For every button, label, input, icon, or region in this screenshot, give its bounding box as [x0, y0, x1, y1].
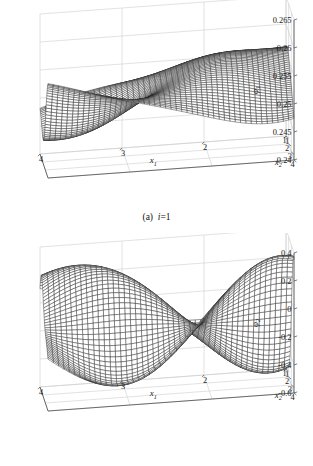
mesh-cell	[107, 274, 113, 277]
mesh-cell	[222, 75, 228, 77]
mesh-cell	[119, 308, 125, 314]
mesh-cell	[271, 100, 277, 103]
mesh-cell	[175, 95, 181, 97]
mesh-cell	[124, 298, 130, 303]
mesh-cell	[130, 319, 136, 325]
mesh-cell	[125, 326, 131, 333]
mesh-cell	[263, 350, 269, 355]
mesh-cell	[275, 317, 281, 325]
mesh-cell	[102, 277, 108, 281]
mesh-cell	[109, 309, 115, 315]
mesh-cell	[135, 308, 141, 314]
mesh-cell	[235, 119, 241, 122]
x2-axis-line	[48, 160, 294, 178]
mesh-cell	[114, 320, 120, 327]
mesh-cell	[256, 116, 262, 119]
mesh-cell	[262, 119, 268, 122]
mesh-cell	[61, 131, 67, 133]
mesh-cell	[287, 93, 293, 95]
mesh-cell	[261, 108, 267, 111]
x1-tick-label: 1	[285, 370, 289, 379]
mesh-cell	[141, 304, 147, 309]
mesh-cell	[77, 324, 83, 329]
mesh-cell	[258, 349, 264, 355]
mesh-cell	[88, 323, 94, 329]
mesh-cell	[282, 260, 288, 263]
mesh-cell	[61, 120, 67, 123]
mesh-cell	[98, 310, 104, 317]
x1-tick-label: 3	[121, 382, 125, 391]
mesh-cell	[99, 328, 105, 334]
mesh-cell	[55, 133, 61, 135]
mesh-cell	[256, 110, 262, 113]
mesh-cell	[141, 309, 147, 314]
panel-b: -0.6-0.4-0.200.20.443211234x2x1φ2 (b) i=…	[0, 233, 313, 466]
mesh-cell	[287, 263, 293, 267]
mesh-cell	[266, 102, 272, 105]
mesh-cell	[256, 121, 262, 123]
mesh-cell	[264, 318, 270, 325]
mesh-cell	[103, 288, 109, 293]
mesh-cell	[115, 357, 121, 363]
x1-axis-title-text: x1	[149, 388, 157, 399]
z-axis-title-sub: 2	[254, 319, 261, 322]
mesh-cell	[88, 334, 94, 339]
mesh-cell	[82, 329, 88, 334]
mesh-cell	[105, 351, 111, 357]
mesh-cell	[253, 338, 259, 344]
mesh-cell	[146, 310, 152, 315]
mesh-cell	[196, 90, 202, 93]
mesh-cell	[102, 284, 108, 289]
figure-root: 0.240.2450.250.2550.260.26543211234x2x1φ…	[0, 0, 313, 466]
mesh-cell	[141, 314, 147, 319]
mesh-cell	[281, 95, 287, 98]
mesh-cell	[55, 323, 61, 327]
mesh-cell	[105, 362, 111, 367]
mesh-cell	[103, 304, 109, 310]
mesh-cell	[146, 319, 152, 324]
mesh-cell	[269, 344, 275, 350]
mesh-cell	[232, 330, 238, 335]
mesh-cell	[103, 309, 109, 316]
z-tick	[294, 280, 297, 281]
mesh-cell	[119, 293, 125, 298]
mesh-cell	[84, 105, 90, 108]
mesh-cell	[217, 77, 223, 79]
mesh-cell	[107, 385, 113, 386]
mesh-cell	[108, 280, 114, 284]
mesh-cell	[100, 101, 106, 103]
mesh-cell	[109, 333, 115, 339]
mesh-cell	[211, 80, 217, 82]
mesh-cell	[78, 105, 84, 108]
mesh-cell	[119, 284, 125, 288]
mesh-cell	[261, 116, 267, 119]
mesh-cell	[108, 284, 114, 288]
mesh-cell	[262, 121, 268, 123]
mesh-cell	[146, 314, 152, 319]
z-tick	[294, 103, 297, 104]
mesh-cell	[110, 362, 116, 367]
mesh-cell	[84, 108, 90, 111]
mesh-cell	[67, 117, 73, 120]
mesh-cell	[264, 325, 270, 332]
mesh-cell	[102, 274, 108, 277]
mesh-cell	[72, 114, 78, 117]
mesh-cell	[62, 117, 68, 120]
mesh-cell	[141, 319, 147, 325]
mesh-cell	[270, 297, 276, 305]
x1-tick-label: 2	[203, 376, 207, 385]
mesh-cell	[264, 311, 270, 319]
mesh-cell	[124, 293, 130, 298]
mesh-cell	[170, 97, 176, 99]
mesh-cell	[217, 80, 223, 83]
mesh-cell	[115, 333, 121, 340]
mesh-cell	[216, 75, 222, 77]
mesh-cell	[89, 103, 95, 105]
mesh-cell	[99, 340, 105, 346]
mesh-cell	[242, 336, 248, 342]
mesh-cell	[274, 343, 280, 349]
z-tick-label: 0.265	[273, 16, 292, 25]
mesh-cell	[93, 323, 99, 329]
panel-a: 0.240.2450.250.2550.260.26543211234x2x1φ…	[0, 0, 313, 233]
mesh-cell	[180, 95, 186, 97]
